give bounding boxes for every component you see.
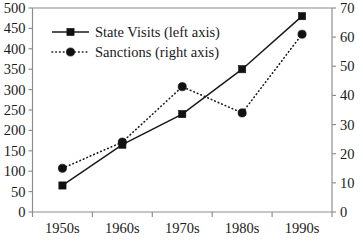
x-axis-category-label: 1970s (165, 220, 200, 236)
data-point-marker (59, 182, 66, 189)
left-axis-tick-label: 500 (4, 0, 26, 16)
left-axis-tick-label: 0 (18, 204, 25, 220)
legend-marker (66, 48, 74, 56)
data-point-marker (298, 30, 306, 38)
dual-axis-line-chart: 050100150200250300350400450500 010203040… (0, 0, 363, 242)
x-axis-category-label: 1990s (285, 220, 320, 236)
left-axis-tick-label: 50 (11, 184, 26, 200)
left-axis-tick-label: 300 (4, 82, 26, 98)
data-point-marker (58, 164, 66, 172)
data-point-marker (298, 13, 305, 20)
x-axis-category-label: 1950s (45, 220, 80, 236)
right-axis-tick-label: 50 (340, 58, 355, 74)
data-point-marker (179, 110, 186, 117)
left-axis-tick-label: 100 (4, 163, 26, 179)
legend-label: State Visits (left axis) (95, 24, 220, 41)
right-axis-tick-label: 60 (340, 29, 355, 45)
data-point-marker (238, 109, 246, 117)
chart-canvas: 050100150200250300350400450500 010203040… (0, 0, 363, 242)
right-axis-tick-label: 40 (340, 87, 355, 103)
data-point-marker (118, 138, 126, 146)
left-axis-tick-label: 350 (4, 61, 26, 77)
x-axis-category-label: 1980s (225, 220, 260, 236)
left-axis-tick-label: 250 (4, 102, 26, 118)
data-point-marker (178, 83, 186, 91)
right-axis-tick-label: 0 (340, 204, 347, 220)
legend-marker (67, 28, 74, 35)
left-axis-tick-label: 150 (4, 143, 26, 159)
left-axis-tick-label: 200 (4, 122, 26, 138)
right-axis-tick-label: 30 (340, 117, 355, 133)
x-axis-category-label: 1960s (105, 220, 140, 236)
right-axis-tick-label: 10 (340, 175, 355, 191)
data-point-marker (239, 66, 246, 73)
right-axis-tick-label: 70 (340, 0, 355, 16)
right-axis-tick-label: 20 (340, 146, 355, 162)
legend-label: Sanctions (right axis) (95, 44, 219, 61)
left-axis-tick-label: 450 (4, 20, 26, 36)
left-axis-tick-label: 400 (4, 41, 26, 57)
